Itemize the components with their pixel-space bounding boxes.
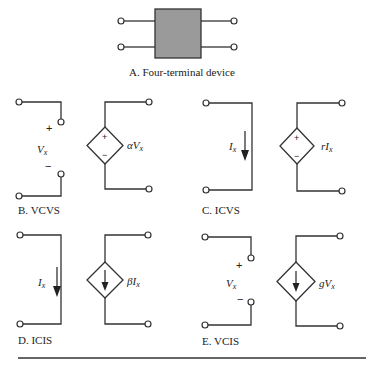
svg-text:+: +	[102, 132, 107, 142]
source-gain-label: βIx	[126, 275, 140, 289]
control-current-label: Ix	[228, 140, 237, 154]
minus-sign: −	[45, 160, 51, 172]
plus-sign: +	[236, 259, 242, 271]
current-arrow-icon	[241, 131, 249, 161]
caption-e: E. VCIS	[202, 335, 239, 347]
control-current-label: Ix	[37, 276, 46, 290]
svg-text:−: −	[294, 151, 299, 161]
terminal	[231, 44, 237, 50]
control-voltage-label: Vx	[226, 277, 237, 291]
svg-text:+: +	[294, 133, 299, 143]
terminal	[118, 44, 124, 50]
plus-sign: +	[46, 122, 52, 134]
caption-a: A. Four-terminal device	[129, 66, 235, 78]
svg-text:−: −	[102, 150, 107, 160]
panel-b-vcvs: + − Vx + − αVx B. VCVS	[16, 99, 152, 216]
source-gain-label: αVx	[127, 139, 144, 153]
terminal	[118, 18, 124, 24]
control-voltage-label: Vx	[37, 143, 48, 157]
panel-c-icvs: Ix + − rIx C. ICVS	[202, 100, 345, 216]
caption-c: C. ICVS	[202, 204, 240, 216]
caption-b: B. VCVS	[18, 204, 60, 216]
source-gain-label: gVx	[319, 277, 335, 291]
minus-sign: −	[237, 293, 243, 305]
panel-a-four-terminal-device: A. Four-terminal device	[118, 9, 237, 78]
device-box	[155, 9, 201, 58]
panel-d-icis: Ix βIx D. ICIS	[17, 232, 151, 346]
controlled-sources-figure: A. Four-terminal device + − Vx + − αVx B…	[0, 0, 366, 371]
panel-e-vcis: + − Vx gVx E. VCIS	[202, 233, 343, 347]
current-arrow-icon	[53, 267, 61, 297]
source-gain-label: rIx	[321, 140, 333, 154]
caption-d: D. ICIS	[18, 334, 52, 346]
terminal	[231, 18, 237, 24]
